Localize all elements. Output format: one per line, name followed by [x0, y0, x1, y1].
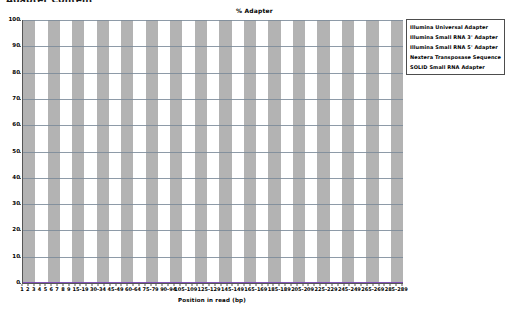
legend-item: SOLID Small RNA Adapter	[410, 62, 502, 72]
x-tick-label: 7	[55, 287, 58, 292]
x-tick-label: 6	[49, 287, 52, 292]
legend-item: Illumina Small RNA 5' Adapter	[410, 42, 502, 52]
x-tick-label: 125-129	[198, 287, 221, 292]
x-tick-label: 165-169	[244, 287, 267, 292]
x-axis: 12345678915-1930-3445-4960-6475-7990-941…	[22, 284, 402, 298]
x-tick-label: 2	[26, 287, 29, 292]
x-tick-label: 9	[67, 287, 70, 292]
legend: Illumina Universal AdapterIllumina Small…	[406, 19, 505, 75]
legend-item: Illumina Small RNA 3' Adapter	[410, 32, 502, 42]
y-tick-mark	[18, 99, 21, 100]
plot-area	[22, 20, 403, 284]
x-tick-label: 8	[61, 287, 64, 292]
y-tick-mark	[18, 257, 21, 258]
x-tick-label: 205-209	[291, 287, 314, 292]
x-tick-label: 30-34	[90, 287, 106, 292]
x-tick-label: 285-289	[385, 287, 408, 292]
x-axis-title: Position in read (bp)	[22, 297, 402, 303]
legend-item: Illumina Universal Adapter	[410, 22, 502, 32]
adapter-content-chart-page: Adapter Content % Adapter 01020304050607…	[0, 0, 509, 315]
x-tick-label: 45-49	[108, 287, 124, 292]
x-tick-label: 105-109	[174, 287, 197, 292]
x-tick-label: 225-229	[315, 287, 338, 292]
x-tick-label: 245-249	[338, 287, 361, 292]
x-tick-label: 4	[38, 287, 41, 292]
y-tick-mark	[18, 125, 21, 126]
x-tick-label: 1	[20, 287, 23, 292]
y-tick-mark	[18, 178, 21, 179]
x-tick-label: 75-79	[143, 287, 159, 292]
y-tick-mark	[18, 152, 21, 153]
x-tick-label: 265-269	[361, 287, 384, 292]
y-axis: 0102030405060708090100	[0, 20, 20, 283]
y-tick-mark	[18, 20, 21, 21]
x-tick-label: 5	[44, 287, 47, 292]
x-tick-label: 60-64	[125, 287, 141, 292]
chart-title: % Adapter	[0, 7, 509, 14]
y-tick-mark	[18, 73, 21, 74]
clipped-page-header: Adapter Content	[6, 0, 93, 2]
y-tick-mark	[18, 230, 21, 231]
y-tick-mark	[18, 204, 21, 205]
x-tick-label: 185-189	[268, 287, 291, 292]
x-tick-label: 15-19	[72, 287, 88, 292]
x-tick-label: 145-149	[221, 287, 244, 292]
y-tick-mark	[18, 46, 21, 47]
legend-item: Nextera Transposase Sequence	[410, 52, 502, 62]
x-tick-label: 3	[32, 287, 35, 292]
series-svg	[23, 20, 403, 283]
